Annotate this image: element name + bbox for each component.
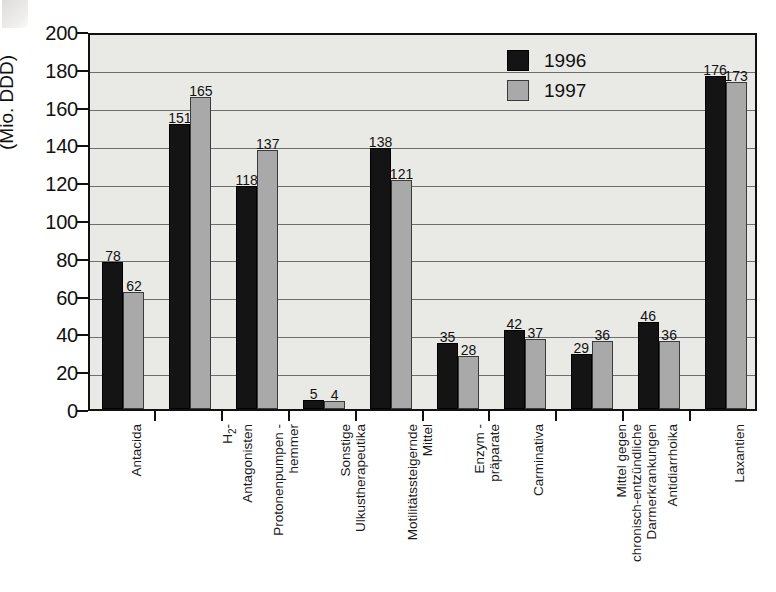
x-axis-tick [288, 411, 290, 421]
y-axis-tick-label: 180 [18, 61, 78, 81]
x-axis-tick [488, 411, 490, 421]
x-axis-category-label: Mittel gegenchronisch-entzündlicheDarmer… [614, 424, 659, 562]
x-axis-label-line: Antidiarrhoika [665, 424, 680, 507]
bar-1997-7 [592, 341, 613, 409]
x-axis-tick [422, 411, 424, 421]
y-axis-tick-label: 120 [18, 174, 78, 194]
x-axis-category-label: Enzym -präparate [472, 424, 502, 482]
bar-value-label: 36 [585, 328, 620, 342]
y-axis-tick [77, 183, 88, 185]
x-axis-tick [355, 411, 357, 421]
x-axis-category-label: MotilitätssteigerndeMittel [405, 424, 435, 540]
x-axis-category-label: H2-Antagonisten [220, 424, 255, 503]
bar-value-label: 78 [95, 249, 130, 263]
bar-value-label: 137 [250, 137, 285, 151]
chart-page: (Mio. DDD) 020406080100120140160180200 7… [0, 0, 776, 592]
bar-value-label: 165 [183, 84, 218, 98]
bar-1997-9 [726, 82, 747, 409]
bar-value-label: 36 [652, 328, 687, 342]
bar-value-label: 62 [116, 279, 151, 293]
y-axis-tick-label: 0 [18, 401, 78, 421]
legend-item-1997: 1997 [507, 77, 586, 104]
bar-1997-0 [123, 292, 144, 409]
bar-1997-5 [458, 356, 479, 409]
x-axis-label-line: Ulkustherapeutika [353, 424, 368, 532]
y-axis-tick-label: 100 [18, 212, 78, 232]
x-axis-label-line: H2- [220, 424, 240, 503]
x-axis-label-line: chronisch-entzündliche [629, 424, 644, 562]
y-axis-tick [77, 334, 88, 336]
bar-value-label: 35 [430, 330, 465, 344]
x-axis-label-line: Antagonisten [240, 424, 255, 503]
x-axis-tick [221, 411, 223, 421]
legend-label: 1996 [544, 51, 586, 70]
x-axis-label-line: Darmerkrankungen [644, 424, 659, 562]
y-axis-title: (Mio. DDD) [0, 55, 18, 150]
x-axis-tick [622, 411, 624, 421]
bar-1997-1 [190, 97, 211, 409]
x-axis-label-line: hemmer [286, 424, 301, 536]
bar-value-label: 46 [631, 309, 666, 323]
x-axis-label-line: Enzym - [472, 424, 487, 482]
y-axis-tick-label: 80 [18, 250, 78, 270]
gray-square-swatch-icon [507, 80, 529, 101]
x-axis-label-line: Carminativa [531, 424, 546, 496]
y-axis-tick [77, 70, 88, 72]
black-square-swatch-icon [507, 50, 529, 71]
x-axis-tick [555, 411, 557, 421]
y-axis-tick-label: 40 [18, 325, 78, 345]
y-axis-tick [77, 410, 88, 412]
y-axis-tick-label: 20 [18, 363, 78, 383]
y-axis-tick [77, 108, 88, 110]
chart-legend: 1996 1997 [507, 47, 586, 107]
bar-value-label: 138 [363, 135, 398, 149]
bar-1997-4 [391, 180, 412, 409]
y-axis-tick [77, 32, 88, 34]
x-axis-label-line: Protonenpumpen - [271, 424, 286, 536]
bar-1996-6 [504, 330, 525, 409]
y-axis-tick-label: 140 [18, 136, 78, 156]
x-axis-label-line: Laxantien [732, 424, 747, 483]
x-axis-tick [154, 411, 156, 421]
bar-1997-2 [257, 150, 278, 409]
x-axis-category-label: Antacida [129, 424, 144, 477]
x-axis-category-label: Protonenpumpen -hemmer [271, 424, 301, 536]
bar-1996-9 [705, 76, 726, 409]
bar-1996-7 [571, 354, 592, 409]
x-axis-label-line: Sonstige [338, 424, 353, 532]
bar-value-label: 28 [451, 343, 486, 357]
bar-value-label: 173 [719, 69, 754, 83]
x-axis-category-label: Laxantien [732, 424, 747, 483]
bar-1996-1 [169, 124, 190, 409]
plot-area: 7815111851383542294617662165137412128373… [88, 33, 757, 411]
x-axis-label-line: Motilitätssteigernde [405, 424, 420, 540]
y-axis-tick [77, 259, 88, 261]
bar-1997-8 [659, 341, 680, 409]
y-axis-tick [77, 145, 88, 147]
bar-1997-6 [525, 339, 546, 409]
bar-value-label: 4 [317, 388, 352, 402]
bar-1996-4 [370, 148, 391, 409]
x-axis-category-label: SonstigeUlkustherapeutika [338, 424, 368, 532]
y-axis-tick-label: 200 [18, 23, 78, 43]
y-axis-tick-label: 60 [18, 288, 78, 308]
x-axis-label-line: Mittel gegen [614, 424, 629, 562]
y-axis-tick-label: 160 [18, 99, 78, 119]
y-axis-tick [77, 221, 88, 223]
bar-1996-2 [236, 186, 257, 409]
legend-label: 1997 [544, 81, 586, 100]
x-axis-label-line: präparate [487, 424, 502, 482]
legend-item-1996: 1996 [507, 47, 586, 74]
x-axis-tick [689, 411, 691, 421]
x-axis-label-line: Mittel [420, 424, 435, 540]
x-axis-category-label: Carminativa [531, 424, 546, 496]
y-axis-tick [77, 297, 88, 299]
bar-value-label: 37 [518, 326, 553, 340]
y-axis-tick [77, 372, 88, 374]
gridline [90, 72, 755, 73]
bar-value-label: 121 [384, 167, 419, 181]
x-axis-label-line: Antacida [129, 424, 144, 477]
x-axis-category-label: Antidiarrhoika [665, 424, 680, 507]
